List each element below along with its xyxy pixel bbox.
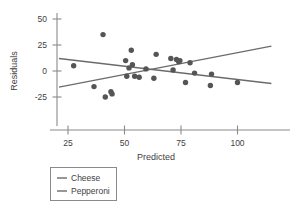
scatter-point	[124, 74, 129, 79]
scatter-point	[130, 62, 135, 67]
legend-item-pepperoni[interactable]: Pepperoni	[57, 186, 110, 196]
scatter-point	[109, 91, 114, 96]
y-tick-label-25: 25	[38, 40, 48, 50]
residual-plot-figure: 50 25 0 -25 Residuals 25 50 75 100 Predi…	[0, 0, 297, 211]
scatter-point	[100, 32, 105, 37]
legend-label-pepperoni: Pepperoni	[71, 186, 110, 196]
scatter-point	[129, 48, 134, 53]
scatter-point	[132, 74, 137, 79]
scatter-point	[177, 58, 182, 63]
scatter-point	[192, 70, 197, 75]
scatter-point	[235, 80, 240, 85]
legend-label-cheese: Cheese	[71, 173, 101, 183]
y-tick-label-minus-25: -25	[35, 92, 48, 102]
y-tick-label-50: 50	[38, 14, 48, 24]
scatter-point	[187, 60, 192, 65]
y-axis: 50 25 0 -25 Residuals	[9, 13, 62, 126]
scatter-point	[168, 56, 173, 61]
scatter-point	[143, 66, 148, 71]
y-tick-label-0: 0	[42, 66, 47, 76]
x-axis-title: Predicted	[137, 152, 175, 162]
scatter-point	[209, 71, 214, 76]
x-tick-label-50: 50	[120, 138, 130, 148]
x-tick-label-75: 75	[176, 138, 186, 148]
scatter-point	[153, 52, 158, 57]
legend-item-cheese[interactable]: Cheese	[57, 173, 101, 183]
scatter-point	[151, 76, 156, 81]
chart-canvas: 50 25 0 -25 Residuals 25 50 75 100 Predi…	[0, 0, 297, 211]
scatter-point	[71, 63, 76, 68]
scatter-point	[208, 83, 213, 88]
legend: Cheese Pepperoni	[51, 168, 117, 201]
x-axis: 25 50 75 100 Predicted	[50, 126, 290, 163]
scatter-point	[136, 75, 141, 80]
scatter-points	[71, 32, 240, 100]
scatter-point	[91, 84, 96, 89]
x-tick-label-25: 25	[63, 138, 73, 148]
y-axis-title: Residuals	[9, 51, 19, 91]
scatter-point	[123, 58, 128, 63]
scatter-point	[183, 80, 188, 85]
scatter-point	[103, 94, 108, 99]
scatter-point	[170, 67, 175, 72]
x-tick-label-100: 100	[230, 138, 244, 148]
trendline-cheese	[59, 59, 271, 84]
